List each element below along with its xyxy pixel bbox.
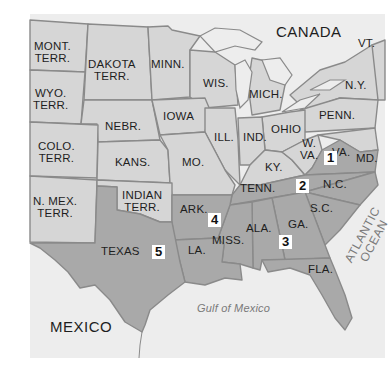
label-mexico: MEXICO xyxy=(50,321,112,333)
marker-5: 5 xyxy=(152,245,165,259)
label-texas: TEXAS xyxy=(101,245,140,257)
label-wis: WIS. xyxy=(203,77,229,89)
label-iowa: IOWA xyxy=(163,110,194,122)
marker-2: 2 xyxy=(296,179,309,193)
label-n-mex-terr: N. MEX.TERR. xyxy=(33,195,77,219)
label-ny: N.Y. xyxy=(345,79,367,91)
label-sc: S.C. xyxy=(310,202,333,214)
label-w-va: W.VA. xyxy=(300,137,318,161)
label-gulf-of-mexico: Gulf of Mexico xyxy=(197,302,270,314)
label-ind: IND. xyxy=(243,131,267,143)
label-mo: MO. xyxy=(182,156,204,168)
label-colo-terr: COLO.TERR. xyxy=(38,140,75,164)
label-mont-terr: MONT.TERR. xyxy=(34,40,71,64)
label-ala: ALA. xyxy=(246,222,272,234)
label-nebr: NEBR. xyxy=(105,120,141,132)
label-md: MD. xyxy=(356,152,378,164)
label-nc: N.C. xyxy=(323,178,347,190)
label-ark: ARK. xyxy=(180,203,208,215)
label-la: LA. xyxy=(188,244,206,256)
label-ill: ILL. xyxy=(214,131,234,143)
label-wyo-terr: WYO.TERR. xyxy=(33,87,69,111)
label-tenn: TENN. xyxy=(240,182,276,194)
label-canada: CANADA xyxy=(276,26,342,38)
label-ohio: OHIO xyxy=(271,123,301,135)
marker-4: 4 xyxy=(208,213,221,227)
label-ga: GA. xyxy=(288,218,308,230)
label-indian-terr: INDIANTERR. xyxy=(122,189,162,213)
label-mich: MICH. xyxy=(249,88,283,100)
label-penn: PENN. xyxy=(319,109,355,121)
label-minn: MINN. xyxy=(151,58,185,70)
label-ky: KY. xyxy=(265,161,283,173)
label-miss: MISS. xyxy=(212,234,244,246)
label-kans: KANS. xyxy=(115,156,151,168)
label-vt: VT. xyxy=(358,37,375,49)
label-dakota-terr: DAKOTATERR. xyxy=(88,58,136,82)
label-fla: FLA. xyxy=(308,263,333,275)
marker-3: 3 xyxy=(279,235,292,249)
marker-1: 1 xyxy=(324,151,337,165)
